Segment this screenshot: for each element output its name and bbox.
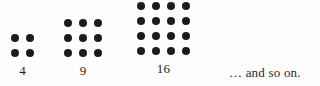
dot-grid-2x2 [11, 34, 34, 57]
dot [167, 47, 175, 55]
dot [182, 32, 190, 40]
dot [64, 19, 72, 27]
dot [182, 2, 190, 10]
dot [152, 47, 160, 55]
dot [64, 49, 72, 57]
dot [167, 2, 175, 10]
dot [64, 34, 72, 42]
dot-group-16: 16 [137, 2, 190, 75]
dot-group-4: 4 [11, 34, 34, 77]
dot-grid-4x4 [137, 2, 190, 55]
dot [26, 49, 34, 57]
dot-group-label-4: 4 [19, 64, 26, 77]
dot [137, 17, 145, 25]
dot [182, 47, 190, 55]
dot-grid-3x3 [64, 19, 102, 57]
dot [152, 17, 160, 25]
and-so-on-text: … and so on. [229, 66, 301, 79]
dot [11, 49, 19, 57]
dot [79, 49, 87, 57]
dot [167, 32, 175, 40]
dot [182, 17, 190, 25]
dot [94, 34, 102, 42]
dot-group-label-9: 9 [80, 64, 87, 77]
dot [137, 32, 145, 40]
dot [94, 49, 102, 57]
dot [137, 47, 145, 55]
square-numbers-figure: 4 9 16 … and so on. [0, 0, 320, 86]
dot [11, 34, 19, 42]
dot [94, 19, 102, 27]
dot [152, 2, 160, 10]
dot [79, 19, 87, 27]
dot-group-9: 9 [64, 19, 102, 77]
dot [26, 34, 34, 42]
dot-group-label-16: 16 [157, 62, 170, 75]
dot [137, 2, 145, 10]
dot [79, 34, 87, 42]
dot [167, 17, 175, 25]
dot [152, 32, 160, 40]
